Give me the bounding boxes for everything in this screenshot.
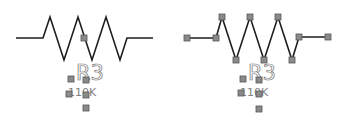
handle-square-icon[interactable] — [83, 77, 89, 83]
handle-square-icon[interactable] — [213, 35, 219, 41]
handle-square-icon[interactable] — [256, 106, 262, 112]
handle-square-icon[interactable] — [68, 76, 74, 82]
handle-square-icon[interactable] — [240, 76, 246, 82]
handle-square-icon[interactable] — [66, 91, 72, 97]
handle-square-icon[interactable] — [256, 91, 262, 97]
resistor-left[interactable]: R3 110K — [16, 17, 153, 111]
handle-square-icon[interactable] — [83, 92, 89, 98]
handle-square-icon[interactable] — [81, 35, 87, 41]
handle-square-icon[interactable] — [325, 34, 331, 40]
schematic-canvas: R3 110K R3 110K — [0, 0, 348, 125]
handle-square-icon[interactable] — [83, 105, 89, 111]
resistor-right[interactable]: R3 110K — [184, 14, 331, 112]
handle-square-icon[interactable] — [238, 90, 244, 96]
designator-label[interactable]: R3 — [76, 61, 104, 85]
handle-square-icon[interactable] — [296, 34, 302, 40]
move-handles[interactable] — [81, 35, 87, 41]
handle-square-icon[interactable] — [247, 14, 253, 20]
handle-square-icon[interactable] — [275, 14, 281, 20]
handle-square-icon[interactable] — [184, 35, 190, 41]
handle-square-icon[interactable] — [256, 77, 262, 83]
handle-square-icon[interactable] — [289, 57, 295, 63]
resistor-zigzag-wire[interactable] — [187, 17, 328, 60]
handle-square-icon[interactable] — [219, 14, 225, 20]
handle-square-icon[interactable] — [233, 57, 239, 63]
